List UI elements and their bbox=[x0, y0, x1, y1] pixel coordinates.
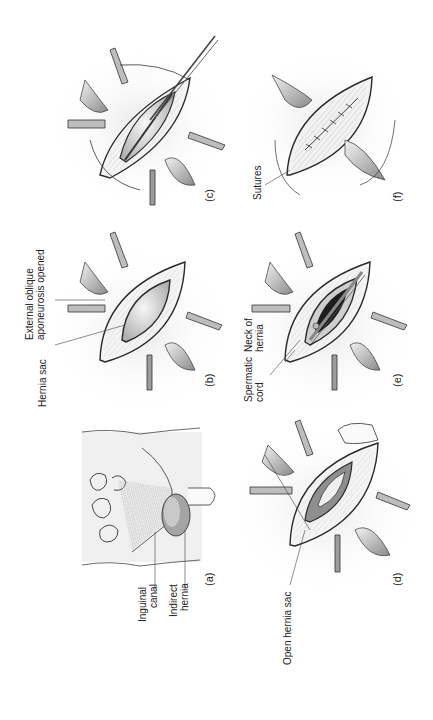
label-spermatic-cord: Spermatic cord bbox=[243, 357, 265, 402]
label-neck-line1: Neck of bbox=[243, 318, 254, 352]
label-neck-of-hernia: Neck of hernia bbox=[243, 318, 265, 352]
caption-e: (e) bbox=[391, 374, 403, 387]
label-neck-line2: hernia bbox=[254, 318, 265, 352]
caption-f: (f) bbox=[391, 192, 403, 202]
panel-f-drawing bbox=[240, 50, 410, 200]
label-external-oblique: External oblique aponeurosis opened bbox=[24, 249, 46, 340]
label-indirect-line2: hernia bbox=[179, 583, 190, 617]
label-hernia-sac: Hernia sac bbox=[37, 359, 48, 407]
label-spermatic-cord-line2: cord bbox=[254, 357, 265, 402]
label-indirect-hernia: Indirect hernia bbox=[168, 583, 190, 617]
label-spermatic-cord-line1: Spermatic bbox=[243, 357, 254, 402]
caption-b: (b) bbox=[203, 374, 215, 387]
panel-c-drawing bbox=[50, 36, 230, 205]
caption-d: (d) bbox=[391, 573, 403, 586]
caption-c: (c) bbox=[203, 189, 215, 202]
caption-a: (a) bbox=[203, 573, 215, 586]
label-inguinal-canal: Inguinal canal bbox=[137, 584, 159, 622]
hernia-repair-illustration bbox=[0, 0, 433, 720]
label-inguinal-line2: canal bbox=[148, 584, 159, 622]
panel-d-drawing bbox=[230, 420, 420, 595]
label-external-oblique-line2: aponeurosis opened bbox=[35, 249, 46, 340]
panel-a-drawing bbox=[82, 428, 215, 590]
label-indirect-line1: Indirect bbox=[168, 583, 179, 617]
label-external-oblique-line1: External oblique bbox=[24, 249, 35, 340]
label-open-hernia-sac: Open hernia sac bbox=[282, 592, 293, 665]
label-sutures: Sutures bbox=[252, 166, 263, 200]
label-inguinal-line1: Inguinal bbox=[137, 584, 148, 622]
panel-b-drawing bbox=[50, 232, 230, 415]
